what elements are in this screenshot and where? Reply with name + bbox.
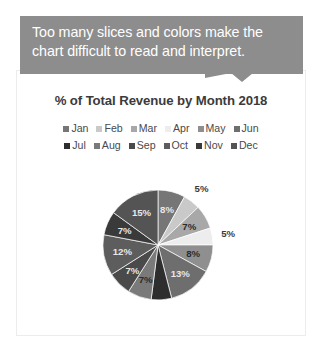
- pie-slice-label-aug: 7%: [139, 274, 153, 285]
- screenshot-stage: Too many slices and colors make the char…: [0, 0, 322, 360]
- legend-swatch-icon: [196, 143, 202, 149]
- legend-swatch-icon: [64, 143, 70, 149]
- legend-swatch-icon: [96, 126, 102, 132]
- legend-item-feb[interactable]: Feb: [96, 123, 122, 134]
- legend-label: Sep: [137, 140, 156, 151]
- pie-slice-label-may: 8%: [186, 248, 200, 259]
- callout-line-1: Too many slices and colors make the: [32, 23, 293, 42]
- callout-banner: Too many slices and colors make the char…: [20, 16, 303, 74]
- pie-slice-label-dec: 15%: [132, 207, 152, 218]
- pie-slice-label-mar: 7%: [182, 221, 196, 232]
- legend-item-jan[interactable]: Jan: [63, 123, 88, 134]
- legend-item-nov[interactable]: Nov: [196, 140, 223, 151]
- pie-chart: 8%5%7%5%8%13%7%7%12%7%15%: [0, 160, 322, 320]
- pie-slice-label-oct: 12%: [113, 246, 133, 257]
- legend-label: Apr: [173, 123, 190, 134]
- legend-swatch-icon: [198, 126, 204, 132]
- callout-tail-shoulder: [205, 73, 231, 78]
- pie-slice-label-sep: 7%: [125, 265, 139, 276]
- pie-slice-label-jan: 8%: [160, 204, 174, 215]
- legend-item-mar[interactable]: Mar: [131, 123, 157, 134]
- legend-item-may[interactable]: May: [198, 123, 226, 134]
- legend-swatch-icon: [165, 126, 171, 132]
- legend-label: Feb: [104, 123, 122, 134]
- pie-slice-label-apr: 5%: [221, 228, 235, 239]
- legend-swatch-icon: [164, 143, 170, 149]
- legend-label: Aug: [102, 140, 121, 151]
- legend-label: Jul: [72, 140, 86, 151]
- legend-item-dec[interactable]: Dec: [231, 140, 258, 151]
- legend-item-sep[interactable]: Sep: [129, 140, 156, 151]
- legend-row-1: Jan Feb Mar Apr May Jun: [0, 120, 322, 137]
- legend-label: Jun: [242, 123, 259, 134]
- legend-item-aug[interactable]: Aug: [94, 140, 121, 151]
- legend-label: Mar: [139, 123, 157, 134]
- legend-swatch-icon: [231, 143, 237, 149]
- callout-tail-pointer: [231, 73, 253, 82]
- legend-swatch-icon: [63, 126, 69, 132]
- legend-item-apr[interactable]: Apr: [165, 123, 190, 134]
- chart-title: % of Total Revenue by Month 2018: [0, 93, 322, 108]
- cut-off-caption: [0, 352, 322, 360]
- legend-item-oct[interactable]: Oct: [164, 140, 188, 151]
- legend-swatch-icon: [129, 143, 135, 149]
- pie-chart-svg: 8%5%7%5%8%13%7%7%12%7%15%: [0, 160, 322, 320]
- legend-item-jul[interactable]: Jul: [64, 140, 86, 151]
- legend-label: Jan: [71, 123, 88, 134]
- legend-label: May: [206, 123, 226, 134]
- chart-legend: Jan Feb Mar Apr May Jun: [0, 120, 322, 154]
- pie-slice-label-nov: 7%: [118, 225, 132, 236]
- legend-item-jun[interactable]: Jun: [234, 123, 259, 134]
- pie-slice-label-jun: 13%: [171, 268, 191, 279]
- callout-text-block: Too many slices and colors make the char…: [20, 16, 303, 61]
- legend-label: Oct: [172, 140, 188, 151]
- legend-swatch-icon: [131, 126, 137, 132]
- callout-line-2: chart difficult to read and interpret.: [32, 42, 293, 61]
- legend-row-2: Jul Aug Sep Oct Nov Dec: [0, 137, 322, 154]
- legend-label: Nov: [204, 140, 223, 151]
- pie-slice-label-feb: 5%: [195, 183, 209, 194]
- legend-label: Dec: [239, 140, 258, 151]
- legend-swatch-icon: [234, 126, 240, 132]
- legend-swatch-icon: [94, 143, 100, 149]
